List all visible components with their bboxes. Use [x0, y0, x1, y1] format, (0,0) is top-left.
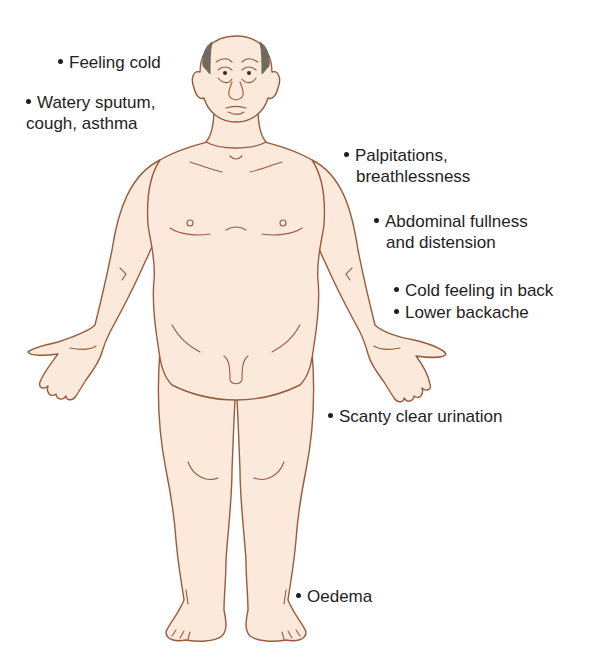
label-lower-backache: Lower backache [394, 302, 529, 323]
bullet-icon [344, 152, 349, 157]
bullet-icon [58, 59, 63, 64]
label-watery-sputum: Watery sputum, cough, asthma [26, 92, 155, 134]
label-palpitations: Palpitations, breathlessness [344, 145, 470, 187]
bullet-icon [374, 218, 379, 223]
bullet-icon [296, 593, 301, 598]
bullet-icon [394, 287, 399, 292]
bullet-icon [394, 309, 399, 314]
label-oedema: Oedema [296, 586, 372, 607]
label-feeling-cold: Feeling cold [58, 52, 161, 73]
bullet-icon [328, 413, 333, 418]
bullet-icon [26, 99, 31, 104]
torso [148, 138, 325, 400]
label-cold-back: Cold feeling in back [394, 280, 553, 301]
label-scanty-urination: Scanty clear urination [328, 406, 502, 427]
left-arm [28, 160, 160, 400]
label-abdominal-fullness: Abdominal fullness and distension [374, 211, 528, 253]
